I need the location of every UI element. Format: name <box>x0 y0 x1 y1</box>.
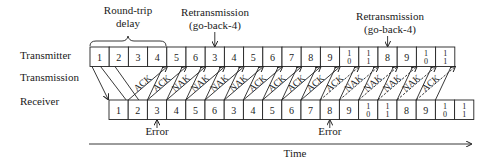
round-trip-label-line2: delay <box>116 17 140 29</box>
transmitter-frame-number: 8 <box>385 52 390 63</box>
receiver-frame-row: 12345634567891011891011 <box>109 100 474 120</box>
transmitter-frame-number: 3 <box>212 52 217 63</box>
response-label: NAK <box>343 73 365 94</box>
receiver-frame-digit-bottom: 1 <box>385 110 389 119</box>
transmitter-frame-number: 9 <box>404 52 409 63</box>
response-label: ACK <box>324 73 346 94</box>
response-label: ACK <box>151 73 173 94</box>
receiver-frame-number: 2 <box>135 105 140 116</box>
receiver-frame-number: 9 <box>347 105 352 116</box>
response-label: ACK <box>420 73 442 94</box>
transmitter-frame-digit-bottom: 0 <box>424 57 428 66</box>
retransmission-2-line2: (go-back-4) <box>364 23 416 36</box>
response-label: NAK <box>362 73 384 94</box>
retransmission-2-line1: Retransmission <box>356 10 424 22</box>
response-label: NAK <box>208 73 230 94</box>
round-trip-brace-icon <box>90 36 166 46</box>
response-label: ACK <box>132 73 154 94</box>
error-label-1: Error <box>145 125 169 137</box>
transmitter-frame-number: 2 <box>116 52 121 63</box>
response-label: NAK <box>381 73 403 94</box>
transmitter-frame-number: 6 <box>193 52 198 63</box>
receiver-frame-number: 3 <box>155 105 160 116</box>
error-label-2: Error <box>318 125 342 137</box>
receiver-frame-digit-bottom: 1 <box>462 110 466 119</box>
response-label: ACK <box>304 73 326 94</box>
transmission-label: Transmission <box>20 71 79 83</box>
transmitter-label: Transmitter <box>20 49 71 61</box>
frame-2-send-line <box>101 67 127 101</box>
transmission-arrows: ACKACKNAKNAKNAKNAKACKACKACKACKACKNAKNAKN… <box>92 67 455 101</box>
receiver-frame-number: 9 <box>423 105 428 116</box>
transmitter-frame-number: 6 <box>270 52 275 63</box>
receiver-frame-number: 5 <box>193 105 198 116</box>
transmitter-frame-number: 1 <box>97 52 102 63</box>
time-axis-label: Time <box>284 147 307 159</box>
transmitter-frame-digit-bottom: 0 <box>347 57 351 66</box>
receiver-frame-number: 4 <box>174 105 179 116</box>
receiver-label: Receiver <box>20 95 59 107</box>
receiver-frame-number: 1 <box>116 105 121 116</box>
receiver-frame-number: 6 <box>212 105 217 116</box>
transmitter-frame-number: 4 <box>232 52 237 63</box>
transmitter-frame-number: 8 <box>308 52 313 63</box>
retransmission-1-line1: Retransmission <box>181 6 249 18</box>
retransmission-1-line2: (go-back-4) <box>189 19 241 32</box>
receiver-frame-number: 5 <box>270 105 275 116</box>
transmitter-frame-number: 3 <box>136 52 141 63</box>
receiver-frame-number: 7 <box>308 105 313 116</box>
response-label: ACK <box>266 73 288 94</box>
receiver-frame-digit-bottom: 0 <box>443 110 447 119</box>
transmitter-frame-number: 4 <box>155 52 160 63</box>
transmitter-frame-row: 12345634567891011891011 <box>90 47 455 67</box>
response-label: NAK <box>170 73 192 94</box>
receiver-frame-number: 3 <box>231 105 236 116</box>
response-label: NAK <box>189 73 211 94</box>
response-label: ACK <box>247 73 269 94</box>
transmitter-frame-number: 9 <box>328 52 333 63</box>
frame-1-send-arrow-icon <box>92 67 108 100</box>
receiver-frame-digit-bottom: 0 <box>366 110 370 119</box>
transmitter-frame-number: 5 <box>251 52 256 63</box>
receiver-frame-number: 8 <box>404 105 409 116</box>
receiver-frame-number: 6 <box>289 105 294 116</box>
go-back-n-arq-diagram: Transmitter Transmission Receiver Round-… <box>0 0 492 164</box>
response-label: NAK <box>400 73 422 94</box>
round-trip-label-line1: Round-trip <box>104 4 153 16</box>
transmitter-frame-digit-bottom: 1 <box>366 57 370 66</box>
response-label: ACK <box>285 73 307 94</box>
response-label: NAK <box>227 73 249 94</box>
transmitter-frame-number: 7 <box>289 52 294 63</box>
receiver-frame-number: 8 <box>327 105 332 116</box>
transmitter-frame-digit-bottom: 1 <box>443 57 447 66</box>
transmitter-frame-number: 5 <box>174 52 179 63</box>
receiver-frame-number: 4 <box>251 105 256 116</box>
